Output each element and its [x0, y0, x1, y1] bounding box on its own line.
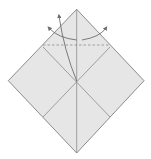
origami-diagram	[0, 0, 151, 159]
